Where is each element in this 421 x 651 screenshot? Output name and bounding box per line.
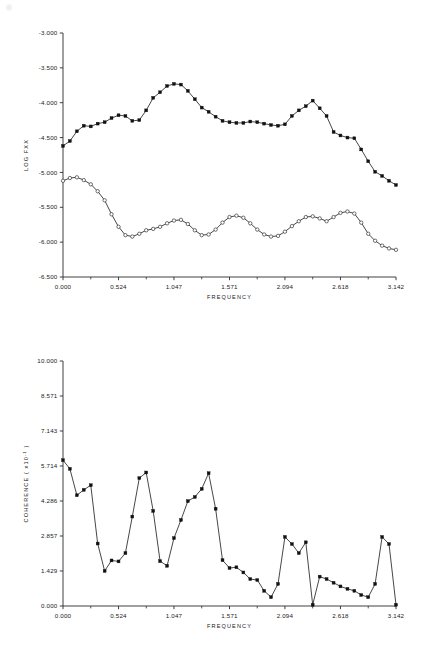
data-point-lower-spectrum [394, 248, 397, 251]
x-axis-title: FREQUENCY [207, 623, 252, 629]
data-point-coherence [360, 594, 363, 597]
coherence-chart: 10.0008.5717.1435.7144.2862.8571.4290.00… [0, 325, 421, 651]
data-point-coherence [124, 552, 127, 555]
data-point-lower-spectrum [367, 232, 370, 235]
data-point-coherence [277, 583, 280, 586]
data-point-lower-spectrum [318, 217, 321, 220]
data-point-coherence [62, 459, 65, 462]
data-point-upper-spectrum [152, 96, 155, 99]
x-axis-title: FREQUENCY [207, 294, 252, 300]
data-point-lower-spectrum [304, 215, 307, 218]
y-tick-label: 0.000 [41, 602, 58, 609]
data-point-lower-spectrum [262, 233, 265, 236]
data-point-upper-spectrum [145, 109, 148, 112]
data-point-lower-spectrum [256, 228, 259, 231]
data-point-upper-spectrum [82, 124, 85, 127]
data-point-coherence [311, 603, 314, 606]
data-point-coherence [290, 543, 293, 546]
data-point-coherence [207, 472, 210, 475]
figure-container: -3.000-3.500-4.000-4.500-5.000-5.500-6.0… [0, 0, 421, 651]
y-tick-label: 1.429 [41, 567, 58, 574]
x-tick-label: 0.524 [110, 612, 127, 619]
data-point-upper-spectrum [62, 144, 65, 147]
data-point-coherence [339, 585, 342, 588]
data-point-coherence [395, 603, 398, 606]
data-point-upper-spectrum [207, 110, 210, 113]
data-point-lower-spectrum [283, 230, 286, 233]
y-tick-label: -5.000 [39, 169, 58, 176]
data-point-lower-spectrum [228, 215, 231, 218]
data-point-lower-spectrum [207, 233, 210, 236]
data-point-upper-spectrum [256, 121, 259, 124]
data-point-coherence [353, 589, 356, 592]
data-point-coherence [152, 509, 155, 512]
log-fxx-chart: -3.000-3.500-4.000-4.500-5.000-5.500-6.0… [0, 0, 421, 325]
data-point-lower-spectrum [75, 176, 78, 179]
y-tick-label: -4.000 [39, 99, 58, 106]
data-point-lower-spectrum [186, 222, 189, 225]
data-point-coherence [270, 596, 273, 599]
x-tick-label: 2.094 [277, 283, 294, 290]
y-tick-label: 2.857 [41, 532, 58, 539]
data-point-upper-spectrum [131, 119, 134, 122]
data-point-coherence [256, 579, 259, 582]
data-point-coherence [318, 575, 321, 578]
data-point-upper-spectrum [221, 119, 224, 122]
data-point-coherence [283, 535, 286, 538]
data-point-coherence [131, 515, 134, 518]
x-tick-label: 0.524 [110, 283, 127, 290]
data-point-upper-spectrum [353, 137, 356, 140]
data-point-lower-spectrum [110, 213, 113, 216]
data-point-coherence [75, 494, 78, 497]
x-tick-label: 2.094 [277, 612, 294, 619]
x-tick-label: 1.047 [166, 283, 183, 290]
data-point-lower-spectrum [68, 176, 71, 179]
data-point-upper-spectrum [166, 85, 169, 88]
data-point-lower-spectrum [325, 220, 328, 223]
data-point-lower-spectrum [214, 228, 217, 231]
data-point-lower-spectrum [235, 214, 238, 217]
data-point-lower-spectrum [138, 232, 141, 235]
data-point-coherence [200, 487, 203, 490]
data-point-lower-spectrum [311, 215, 314, 218]
data-point-lower-spectrum [179, 218, 182, 221]
data-point-coherence [214, 507, 217, 510]
x-tick-label: 2.618 [332, 612, 349, 619]
data-point-coherence [367, 596, 370, 599]
data-point-lower-spectrum [172, 219, 175, 222]
data-point-lower-spectrum [193, 229, 196, 232]
data-point-upper-spectrum [297, 109, 300, 112]
x-tick-label: 2.618 [332, 283, 349, 290]
data-point-coherence [304, 541, 307, 544]
data-point-coherence [388, 543, 391, 546]
y-tick-label: -4.500 [39, 134, 58, 141]
data-point-upper-spectrum [290, 115, 293, 118]
y-tick-label: 7.143 [41, 427, 58, 434]
data-point-lower-spectrum [249, 222, 252, 225]
data-point-lower-spectrum [276, 234, 279, 237]
data-point-lower-spectrum [124, 233, 127, 236]
data-point-coherence [82, 488, 85, 491]
data-point-upper-spectrum [311, 99, 314, 102]
x-tick-label: 0.000 [55, 612, 72, 619]
y-axis-title: COHERENCE ( x10-1 ) [22, 445, 29, 523]
x-tick-label: 1.047 [166, 612, 183, 619]
data-point-upper-spectrum [283, 123, 286, 126]
data-point-upper-spectrum [339, 134, 342, 137]
data-point-upper-spectrum [318, 107, 321, 110]
data-point-upper-spectrum [360, 148, 363, 151]
data-point-upper-spectrum [325, 115, 328, 118]
data-point-coherence [193, 496, 196, 499]
data-point-coherence [159, 560, 162, 563]
data-point-coherence [374, 583, 377, 586]
data-point-upper-spectrum [75, 130, 78, 133]
data-point-upper-spectrum [367, 160, 370, 163]
data-point-lower-spectrum [82, 178, 85, 181]
data-point-upper-spectrum [159, 91, 162, 94]
data-point-coherence [325, 578, 328, 581]
x-tick-label: 1.571 [221, 283, 238, 290]
data-point-coherence [96, 542, 99, 545]
data-point-lower-spectrum [346, 210, 349, 213]
data-point-upper-spectrum [124, 115, 127, 118]
data-point-coherence [297, 552, 300, 555]
